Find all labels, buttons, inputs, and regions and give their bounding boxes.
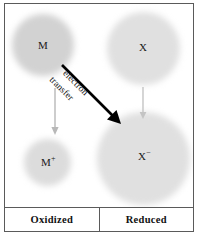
label-x-text: X [139, 41, 147, 53]
caption-oxidized: Oxidized [5, 208, 99, 231]
label-m-plus: M+ [41, 157, 56, 168]
label-x: X [139, 42, 147, 53]
figure-drawing-area: M X M+ X− electron transfer [5, 4, 193, 207]
electron-transfer-arrow-icon [59, 62, 125, 128]
label-m-plus-charge: + [51, 154, 56, 163]
label-x-minus-text: X [138, 150, 146, 162]
label-m-plus-text: M [41, 156, 51, 168]
label-m-text: M [38, 39, 48, 51]
label-x-minus: X− [138, 151, 151, 162]
caption-bar: Oxidized Reduced [5, 207, 193, 231]
label-m: M [38, 40, 48, 51]
label-x-minus-charge: − [146, 148, 151, 157]
reduction-arrow-icon [137, 87, 149, 120]
electron-transfer-figure: M X M+ X− electron transfer Oxidized Red… [0, 0, 198, 236]
caption-reduced: Reduced [100, 208, 194, 231]
